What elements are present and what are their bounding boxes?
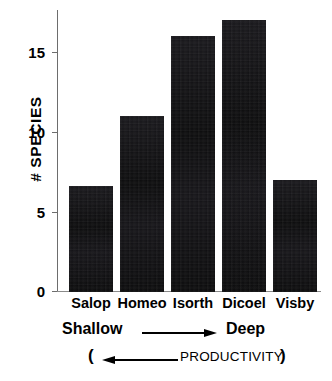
arrow-right-shaft: [142, 332, 208, 334]
arrow-left-icon: [102, 356, 180, 365]
arrow-left-shaft: [114, 359, 178, 361]
plot-area: 15 10 5 0 Salop Homeo Isorth Dicoel Visb…: [57, 10, 321, 292]
bar-dicoel[interactable]: [222, 20, 266, 292]
bar-isorth[interactable]: [171, 36, 215, 292]
bar-salop[interactable]: [69, 186, 113, 292]
arrow-right-head: [204, 329, 217, 337]
productivity-annotation: ( PRODUCTIVITY ): [0, 346, 332, 376]
arrow-right-icon: [142, 329, 220, 337]
y-tick-15: 15: [52, 52, 57, 53]
chart-annotations: Shallow Deep ( PRODUCTIVITY ): [0, 318, 332, 380]
y-tick-10: 10: [52, 132, 57, 133]
x-tick-label-dicoel: Dicoel: [222, 296, 266, 311]
productivity-paren-open: (: [88, 346, 94, 366]
x-tick-label-visby: Visby: [276, 296, 314, 311]
depth-gradient-shallow-label: Shallow: [62, 320, 122, 338]
productivity-paren-close: ): [280, 346, 286, 366]
y-tick-label-5: 5: [37, 204, 45, 219]
y-tick-5: 5: [52, 212, 57, 213]
productivity-label: PRODUCTIVITY: [180, 349, 283, 364]
bar-homeo[interactable]: [120, 116, 164, 292]
y-tick-label-10: 10: [28, 124, 45, 139]
bar-chart-figure: # SPECIES 15 10 5 0 Salop Homeo Isorth D…: [0, 0, 332, 381]
arrow-left-head: [102, 356, 115, 364]
y-tick-label-0: 0: [37, 284, 45, 299]
bar-visby[interactable]: [273, 180, 317, 292]
y-tick-0: 0: [52, 291, 57, 292]
y-tick-label-15: 15: [28, 44, 45, 59]
depth-gradient-annotation: Shallow Deep: [0, 318, 332, 344]
x-tick-label-homeo: Homeo: [117, 296, 166, 311]
depth-gradient-deep-label: Deep: [226, 320, 265, 338]
x-tick-label-isorth: Isorth: [173, 296, 213, 311]
y-axis-spine: [57, 10, 58, 292]
x-tick-label-salop: Salop: [71, 296, 110, 311]
